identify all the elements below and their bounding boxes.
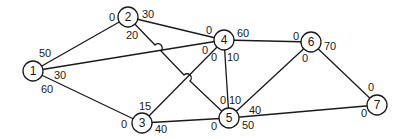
edge-label-4-6-at-4: 60 — [237, 27, 249, 39]
node-1-label: 1 — [30, 64, 37, 78]
edge-label-5-7-at-5: 50 — [242, 119, 254, 131]
node-7: 7 — [367, 95, 387, 115]
node-3: 3 — [132, 113, 152, 133]
edge-label-1-3-at-1: 60 — [41, 83, 53, 95]
edge-1-3 — [33, 71, 142, 123]
edge-label-4-5-at-4: 10 — [227, 51, 239, 63]
edge-label-2-4-at-2: 30 — [142, 8, 154, 20]
edge-5-6 — [229, 42, 311, 118]
edge-label-3-4-at-3: 15 — [139, 100, 151, 112]
edge-label-2-4-at-4: 0 — [206, 24, 212, 36]
edge-label-3-5-at-3: 40 — [155, 123, 167, 135]
edge-1-4 — [33, 40, 224, 71]
node-6-label: 6 — [308, 35, 315, 49]
edge-label-3-4-at-4: 0 — [211, 51, 217, 63]
edge-label-5-6-at-6: 0 — [302, 52, 308, 64]
node-2: 2 — [118, 7, 138, 27]
edge-label-1-4-at-4: 0 — [202, 44, 208, 56]
node-5: 5 — [219, 108, 239, 128]
edge-6-7 — [311, 42, 377, 105]
edge-label-6-7-at-6: 70 — [324, 40, 336, 52]
edge-label-1-2-at-2: 0 — [109, 11, 115, 23]
node-5-label: 5 — [226, 111, 233, 125]
edge-label-2-5-at-2: 20 — [126, 29, 138, 41]
edge-label-1-2-at-1: 50 — [39, 47, 51, 59]
edge-label-6-7-at-7: 0 — [368, 81, 374, 93]
node-4-label: 4 — [221, 33, 228, 47]
edge-label-5-6-at-5: 40 — [249, 104, 261, 116]
edge-label-4-6-at-6: 0 — [293, 30, 299, 42]
edge-label-4-5-at-5: 10 — [229, 94, 241, 106]
edge-label-1-4-at-1: 30 — [54, 69, 66, 81]
node-7-label: 7 — [374, 98, 381, 112]
edge-labels-layer: 50 30 60 0 30 20 15 0 40 0 60 0 0 10 0 7… — [39, 8, 374, 135]
network-diagram: 1 2 3 4 5 6 7 50 30 60 0 30 — [0, 0, 404, 139]
node-4: 4 — [214, 30, 234, 50]
edge-label-5-7-at-7: 0 — [361, 107, 367, 119]
node-2-label: 2 — [125, 10, 132, 24]
edge-label-2-5-at-5: 0 — [220, 94, 226, 106]
node-6: 6 — [301, 32, 321, 52]
node-3-label: 3 — [139, 116, 146, 130]
node-1: 1 — [23, 61, 43, 81]
edge-label-3-5-at-5: 0 — [211, 120, 217, 132]
edge-label-1-3-at-3: 0 — [121, 118, 127, 130]
